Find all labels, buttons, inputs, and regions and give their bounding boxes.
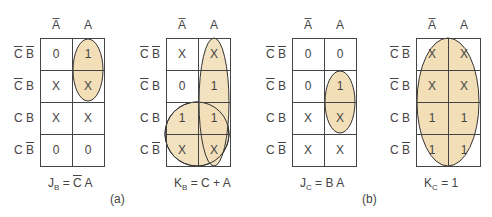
kmap-cell: 1	[416, 134, 448, 166]
row-label: C B	[120, 79, 160, 93]
kmap-cell: 0	[166, 70, 198, 102]
kmap-cell: 1	[416, 102, 448, 134]
column-label: A̅	[166, 18, 198, 32]
part-label-b: (b)	[362, 192, 377, 206]
kmap-cell: 0	[292, 38, 324, 70]
column-label: A	[448, 18, 480, 32]
row-label: C B	[246, 47, 286, 61]
kmap-cell: 1	[198, 102, 230, 134]
kmap-cell: X	[292, 134, 324, 166]
column-label: A	[198, 18, 230, 32]
kmap-cell: X	[292, 102, 324, 134]
equation-label: KB = C + A	[174, 176, 231, 192]
row-label: C B	[370, 143, 410, 157]
kmap-cell: 0	[324, 38, 356, 70]
row-label: C B	[246, 111, 286, 125]
kmap-cell: X	[324, 102, 356, 134]
kmap-cell: 0	[40, 134, 72, 166]
kmap-cell: 1	[198, 70, 230, 102]
part-label-a: (a)	[110, 192, 125, 206]
equation-label: JC = B A	[300, 176, 344, 192]
row-label: C B	[370, 111, 410, 125]
column-label: A̅	[40, 18, 72, 32]
kmap-cell: X	[40, 102, 72, 134]
row-label: C B	[120, 47, 160, 61]
row-label: C B	[370, 79, 410, 93]
row-label: C B	[0, 143, 34, 157]
kmap-cell: 0	[292, 70, 324, 102]
column-label: A	[324, 18, 356, 32]
equation-label: JB = C A	[48, 176, 92, 192]
kmap-cell: X	[166, 38, 198, 70]
kmap-cell: X	[166, 134, 198, 166]
kmap-cell: X	[416, 70, 448, 102]
kmap-cell: X	[416, 38, 448, 70]
kmap-cell: 1	[166, 102, 198, 134]
column-label: A̅	[292, 18, 324, 32]
row-label: C B	[120, 143, 160, 157]
row-label: C B	[120, 111, 160, 125]
kmap-cell: 1	[324, 70, 356, 102]
kmap-cell: X	[198, 134, 230, 166]
row-label: C B	[370, 47, 410, 61]
kmap-cell: 0	[72, 134, 104, 166]
row-label: C B	[0, 111, 34, 125]
column-label: A	[72, 18, 104, 32]
row-label: C B	[0, 47, 34, 61]
kmap-cell: 0	[40, 38, 72, 70]
row-label: C B	[246, 79, 286, 93]
row-label: C B	[246, 143, 286, 157]
kmap-cell: X	[40, 70, 72, 102]
kmap-cell: X	[324, 134, 356, 166]
row-label: C B	[0, 79, 34, 93]
kmap-cell: 1	[448, 134, 480, 166]
column-label: A̅	[416, 18, 448, 32]
kmap-cell: X	[448, 38, 480, 70]
kmap-cell: 1	[72, 38, 104, 70]
kmap-cell: X	[72, 70, 104, 102]
kmap-cell: X	[72, 102, 104, 134]
equation-label: KC = 1	[424, 176, 458, 192]
kmap-cell: X	[448, 70, 480, 102]
kmap-cell: 1	[448, 102, 480, 134]
kmap-cell: X	[198, 38, 230, 70]
